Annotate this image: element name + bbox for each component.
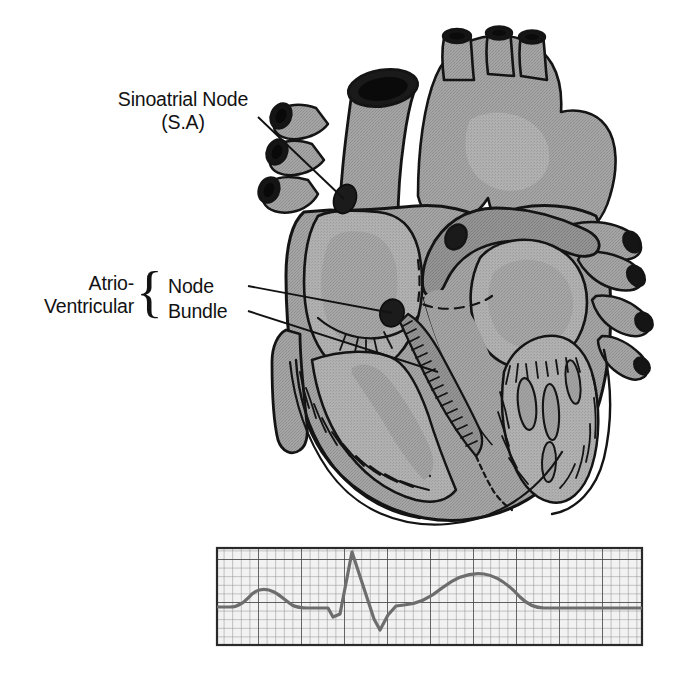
ecg-strip [217,548,642,645]
brachiocephalic-inner-lumen [449,33,465,40]
atrioventricular-label-line2: Ventricular [12,295,134,318]
left-subclavian-inner-lumen [525,34,539,40]
sinoatrial-node-label-line1: Sinoatrial Node [98,88,268,111]
left-atrium-inner-shading [488,260,573,349]
sinoatrial-node-label-line2: (S.A) [98,111,268,134]
av-node-label: Node [168,275,214,298]
left-carotid-inner-lumen [492,30,506,36]
atrioventricular-label-line1: Atrio- [12,272,134,295]
atrioventricular-label: Atrio- Ventricular [12,272,134,318]
av-bundle-label: Bundle [168,300,228,323]
sinoatrial-node-label: Sinoatrial Node (S.A) [98,88,268,134]
curly-brace-icon: { [136,264,163,320]
